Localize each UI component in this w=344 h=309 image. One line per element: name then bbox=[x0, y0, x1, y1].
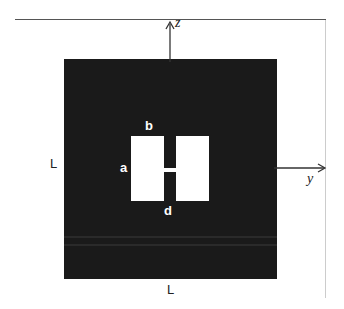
patch-height-label: a bbox=[120, 160, 127, 175]
feed-width-label: d bbox=[164, 203, 172, 218]
axes-arrows bbox=[0, 0, 344, 309]
y-axis-label: y bbox=[307, 171, 313, 187]
z-axis-label: z bbox=[175, 15, 180, 31]
patch-width-label: b bbox=[145, 118, 153, 133]
side-length-label-bottom: L bbox=[167, 282, 174, 297]
gap-label: g bbox=[177, 160, 185, 175]
side-length-label-left: L bbox=[50, 156, 57, 171]
